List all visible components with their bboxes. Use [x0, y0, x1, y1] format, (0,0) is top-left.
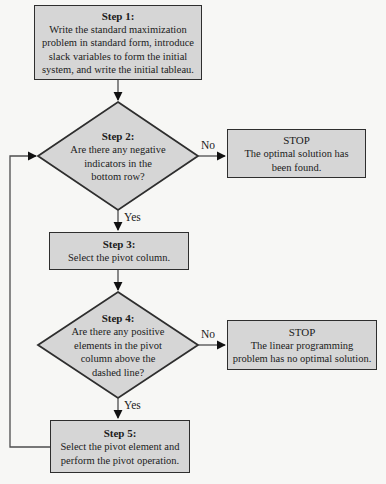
node-text-line: problem in standard form, introduce	[35, 36, 201, 50]
node-text-line: problem has no optimal solution.	[228, 352, 376, 366]
stop-no-solution-title: STOP	[228, 325, 376, 339]
node-text-line: The linear programming	[228, 339, 376, 353]
node-text-line: Write the standard maximization	[35, 23, 201, 37]
step5-process-box: Step 5: Select the pivot element and per…	[50, 420, 190, 473]
stop-optimal-box: STOP The optimal solution has been found…	[227, 129, 366, 178]
node-text-line: been found.	[228, 161, 365, 175]
edge-label-step4-no: No	[201, 328, 215, 341]
edge-label-step2-yes: Yes	[124, 211, 141, 224]
node-text-line: Select the pivot column.	[50, 251, 188, 265]
step3-process-box: Step 3: Select the pivot column.	[49, 232, 189, 270]
node-text-line: system, and write the initial tableau.	[35, 63, 201, 77]
edge-label-step2-no: No	[201, 139, 215, 152]
step4-decision-diamond	[38, 292, 198, 398]
stop-optimal-title: STOP	[228, 133, 365, 147]
step3-title: Step 3:	[50, 237, 188, 251]
edge-label-step4-yes: Yes	[124, 399, 141, 412]
node-text-line: Select the pivot element and	[51, 440, 189, 454]
step1-title: Step 1:	[35, 9, 201, 23]
node-text-line: The optimal solution has	[228, 147, 365, 161]
step1-process-box: Step 1: Write the standard maximization …	[34, 5, 202, 80]
stop-no-solution-box: STOP The linear programming problem has …	[227, 320, 377, 370]
step5-title: Step 5:	[51, 426, 189, 440]
node-text-line: slack variables to form the initial	[35, 50, 201, 64]
flowchart-canvas: Step 1: Write the standard maximization …	[0, 0, 386, 484]
step2-decision-diamond	[38, 102, 198, 210]
node-text-line: perform the pivot operation.	[51, 454, 189, 468]
connector-step5-loop-to-step2	[10, 156, 50, 447]
